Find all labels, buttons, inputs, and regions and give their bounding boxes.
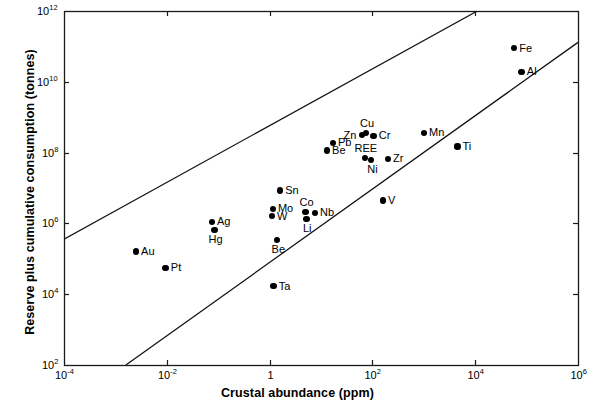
- data-label-zr-19: Zr: [393, 153, 403, 164]
- trend-lines: [64, 11, 578, 365]
- x-tick-label-3: 102: [365, 369, 381, 381]
- x-tick-label-2: 1: [268, 369, 274, 381]
- axis-ticks: [64, 11, 578, 365]
- plot-canvas: [0, 0, 595, 414]
- data-point-ag-2: [209, 219, 215, 225]
- plot-frame: [65, 12, 579, 366]
- data-label-fe-23: Fe: [519, 43, 532, 54]
- data-label-zn-14: Zn: [344, 130, 357, 141]
- data-label-mo-5: Mo: [278, 203, 293, 214]
- data-label-hg-3: Hg: [209, 234, 223, 245]
- data-label-au-0: Au: [141, 246, 154, 257]
- data-point-be-12: [324, 147, 330, 153]
- data-label-ti-22: Ti: [463, 141, 472, 152]
- lower-bound-line: [126, 42, 578, 365]
- data-point-au-0: [133, 248, 139, 254]
- y-tick-label-3: 108: [42, 147, 58, 159]
- data-point-li-10: [303, 216, 309, 222]
- data-label-li-10: Li: [303, 223, 312, 234]
- x-tick-label-4: 104: [468, 369, 484, 381]
- x-tick-label-0: 10-4: [55, 369, 74, 381]
- y-tick-label-4: 1010: [37, 76, 58, 88]
- upper-bound-line-stroke: [64, 11, 477, 239]
- y-tick-label-0: 102: [42, 359, 58, 371]
- data-label-mn-21: Mn: [429, 127, 444, 138]
- data-point-ti-22: [454, 143, 460, 149]
- y-tick-label-2: 106: [42, 217, 58, 229]
- data-point-mo-5: [270, 206, 276, 212]
- y-tick-label-1: 104: [42, 288, 58, 300]
- data-label-ag-2: Ag: [217, 216, 230, 227]
- data-label-pt-1: Pt: [171, 262, 181, 273]
- data-label-cr-16: Cr: [379, 130, 391, 141]
- plot-border: [65, 12, 579, 366]
- data-label-nb-11: Nb: [320, 207, 334, 218]
- upper-bound-line: [64, 11, 477, 239]
- y-axis-title: Reserve plus cumulative consumption (ton…: [23, 12, 37, 372]
- x-tick-label-5: 106: [571, 369, 587, 381]
- y-tick-label-5: 1012: [37, 5, 58, 17]
- data-label-ni-18: Ni: [367, 164, 377, 175]
- scatter-plot-figure: AuPtAgHgWMoSnBeTaCoLiNbBePbZnCuCrREENiZr…: [0, 0, 595, 414]
- data-point-mn-21: [421, 130, 427, 136]
- data-label-ta-8: Ta: [279, 281, 291, 292]
- data-point-ta-8: [270, 283, 276, 289]
- data-point-v-20: [380, 197, 386, 203]
- lower-bound-line-stroke: [126, 42, 578, 365]
- data-point-sn-6: [277, 187, 283, 193]
- data-label-co-9: Co: [300, 197, 314, 208]
- data-label-cu-15: Cu: [360, 118, 374, 129]
- data-label-al-24: Al: [527, 66, 537, 77]
- data-point-co-9: [302, 209, 308, 215]
- data-point-al-24: [518, 69, 524, 75]
- x-axis-title: Crustal abundance (ppm): [0, 386, 595, 400]
- data-label-be-7: Be: [272, 244, 285, 255]
- data-label-sn-6: Sn: [285, 185, 298, 196]
- data-point-cr-16: [370, 133, 376, 139]
- data-point-pt-1: [162, 265, 168, 271]
- x-tick-label-1: 10-2: [158, 369, 177, 381]
- data-label-v-20: V: [388, 195, 395, 206]
- data-label-ree-17: REE: [355, 143, 378, 154]
- data-point-nb-11: [312, 210, 318, 216]
